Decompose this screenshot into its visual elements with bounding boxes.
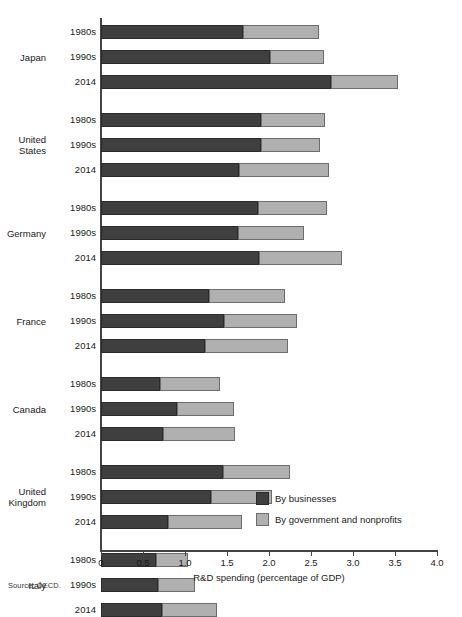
x-tick-label: 3.0 <box>346 557 359 568</box>
x-tick-mark <box>227 551 228 556</box>
period-label: 2014 <box>52 516 96 527</box>
source-note: Source: OECD. <box>8 581 61 590</box>
bar-segment-businesses <box>101 490 211 504</box>
x-tick-mark <box>185 551 186 556</box>
bar-row <box>101 603 437 617</box>
bar-segment-businesses <box>101 138 261 152</box>
legend-item-businesses: By businesses <box>256 489 402 507</box>
period-label: 1990s <box>52 139 96 150</box>
bar-segment-businesses <box>101 603 162 617</box>
bar-row <box>101 377 437 391</box>
bar-segment-government <box>261 113 326 127</box>
period-label: 1980s <box>52 378 96 389</box>
period-label: 1990s <box>52 315 96 326</box>
bar-segment-government <box>205 339 288 353</box>
bar-segment-businesses <box>101 75 331 89</box>
country-label: Japan <box>0 52 46 63</box>
period-label: 1980s <box>52 466 96 477</box>
period-label: 1980s <box>52 26 96 37</box>
x-tick-label: 3.5 <box>388 557 401 568</box>
country-axis-labels: JapanUnited StatesGermanyFranceCanadaUni… <box>0 0 46 604</box>
period-label: 1980s <box>52 114 96 125</box>
bar-segment-businesses <box>101 427 163 441</box>
x-tick-label: 2.0 <box>262 557 275 568</box>
bar-segment-businesses <box>101 226 238 240</box>
bar-row <box>101 113 437 127</box>
bar-segment-government <box>239 163 330 177</box>
legend-swatch-government-icon <box>256 513 269 526</box>
bar-row <box>101 226 437 240</box>
country-label: Canada <box>0 404 46 415</box>
period-label: 2014 <box>52 76 96 87</box>
country-label: Germany <box>0 228 46 239</box>
bar-segment-government <box>224 314 297 328</box>
period-label: 2014 <box>52 428 96 439</box>
bar-row <box>101 251 437 265</box>
bar-row <box>101 465 437 479</box>
bar-row <box>101 402 437 416</box>
bar-row <box>101 75 437 89</box>
bar-segment-government <box>258 201 327 215</box>
period-label: 2014 <box>52 604 96 615</box>
bar-segment-government <box>168 515 242 529</box>
legend-label-government: By government and nonprofits <box>275 514 402 525</box>
x-tick-label: 4.0 <box>430 557 443 568</box>
bar-segment-businesses <box>101 289 209 303</box>
period-label: 2014 <box>52 252 96 263</box>
bar-segment-government <box>243 25 319 39</box>
bar-segment-government <box>270 50 324 64</box>
period-label: 2014 <box>52 164 96 175</box>
country-label: United States <box>0 134 46 156</box>
bar-segment-government <box>162 603 217 617</box>
x-tick-mark <box>395 551 396 556</box>
legend-label-businesses: By businesses <box>275 493 336 504</box>
x-tick-mark <box>101 551 102 556</box>
bar-segment-businesses <box>101 50 270 64</box>
bar-segment-businesses <box>101 201 258 215</box>
bar-row <box>101 289 437 303</box>
x-tick-label: 0.5 <box>136 557 149 568</box>
bar-row <box>101 138 437 152</box>
bar-row <box>101 25 437 39</box>
x-tick-label: 1.0 <box>178 557 191 568</box>
bar-segment-businesses <box>101 339 205 353</box>
x-tick-label: 0 <box>98 557 103 568</box>
bar-row <box>101 50 437 64</box>
x-axis-title: R&D spending (percentage of GDP) <box>101 572 437 583</box>
bar-segment-businesses <box>101 163 239 177</box>
bar-segment-businesses <box>101 113 261 127</box>
bar-row <box>101 163 437 177</box>
x-tick-mark <box>143 551 144 556</box>
bar-segment-businesses <box>101 377 160 391</box>
country-label: United Kingdom <box>0 486 46 508</box>
legend-swatch-businesses-icon <box>256 492 269 505</box>
period-label: 1980s <box>52 202 96 213</box>
bar-row <box>101 201 437 215</box>
period-label: 1990s <box>52 403 96 414</box>
bar-segment-government <box>163 427 234 441</box>
period-label: 1980s <box>52 554 96 565</box>
chart-legend: By businesses By government and nonprofi… <box>256 489 402 531</box>
x-tick-mark <box>353 551 354 556</box>
period-label: 1990s <box>52 227 96 238</box>
bar-segment-businesses <box>101 515 168 529</box>
bar-segment-government <box>331 75 398 89</box>
period-axis-labels: 1980s1990s20141980s1990s20141980s1990s20… <box>48 0 96 604</box>
x-tick-label: 2.5 <box>304 557 317 568</box>
bar-segment-government <box>261 138 321 152</box>
bar-segment-businesses <box>101 251 259 265</box>
bar-segment-businesses <box>101 402 177 416</box>
bar-segment-businesses <box>101 465 223 479</box>
bar-segment-government <box>238 226 304 240</box>
period-label: 1980s <box>52 290 96 301</box>
bar-segment-government <box>223 465 290 479</box>
plot-area <box>101 18 437 551</box>
period-label: 1990s <box>52 51 96 62</box>
x-tick-mark <box>311 551 312 556</box>
bar-row <box>101 427 437 441</box>
bar-segment-government <box>160 377 220 391</box>
bar-segment-businesses <box>101 25 243 39</box>
x-tick-label: 1.5 <box>220 557 233 568</box>
bar-segment-government <box>209 289 285 303</box>
